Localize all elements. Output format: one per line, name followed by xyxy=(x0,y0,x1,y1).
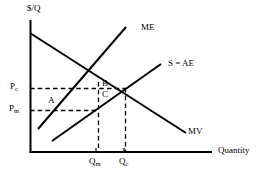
quantity-tick-qc-subscript: c xyxy=(126,160,129,167)
price-tick-pc: Pc xyxy=(10,82,18,91)
area-label-c: C xyxy=(102,90,108,99)
quantity-tick-qm-subscript: m xyxy=(96,160,101,167)
area-label-b: B xyxy=(102,79,108,88)
curve-s-ae xyxy=(52,64,161,141)
quantity-tick-qm: Qm xyxy=(89,157,101,166)
price-tick-pc-subscript: c xyxy=(15,85,18,92)
x-axis-label: Quantity xyxy=(218,146,250,155)
price-tick-pm-subscript: m xyxy=(14,107,19,114)
quantity-tick-qc-base: Q xyxy=(119,156,126,166)
quantity-tick-qc: Qc xyxy=(119,157,128,166)
curve-me xyxy=(38,27,126,129)
area-label-a: A xyxy=(48,96,55,105)
curve-label-s-ae: S = AE xyxy=(168,59,194,68)
quantity-tick-qm-base: Q xyxy=(89,156,96,166)
curve-label-me: ME xyxy=(141,23,155,32)
monopsony-diagram: $/Q Quantity ME S = AE MV Pc Pm Qm Qc A … xyxy=(0,0,268,179)
y-axis-label: $/Q xyxy=(27,4,41,13)
price-tick-pm: Pm xyxy=(9,104,19,113)
guide-line-group xyxy=(30,82,126,152)
curve-label-mv: MV xyxy=(188,127,203,136)
